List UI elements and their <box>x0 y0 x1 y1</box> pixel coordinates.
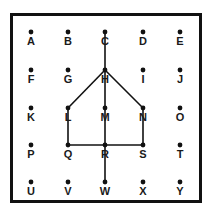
dot-grid-figure: ABCDEFGHIJKLMNOPQRSTUVWXY <box>0 0 210 222</box>
point-d: D <box>139 30 147 47</box>
dot-marker-icon <box>103 143 108 148</box>
point-label: G <box>64 73 73 85</box>
point-label: U <box>27 185 35 197</box>
point-b: B <box>64 30 72 47</box>
point-label: B <box>64 35 72 47</box>
segment-h-l <box>68 70 105 108</box>
dot-marker-icon <box>29 143 34 148</box>
point-label: R <box>101 148 109 160</box>
dot-marker-icon <box>178 180 183 185</box>
point-label: L <box>65 111 72 123</box>
point-o: O <box>176 106 185 123</box>
point-label: D <box>139 35 147 47</box>
segment-h-n <box>105 70 143 108</box>
point-k: K <box>27 106 35 123</box>
point-label: Y <box>176 185 184 197</box>
point-l: L <box>65 106 72 123</box>
point-label: N <box>139 111 147 123</box>
point-a: A <box>27 30 35 47</box>
point-j: J <box>177 68 183 85</box>
dot-marker-icon <box>103 180 108 185</box>
dot-marker-icon <box>141 180 146 185</box>
point-label: C <box>101 35 109 47</box>
point-g: G <box>64 68 73 85</box>
point-v: V <box>64 180 72 197</box>
dot-marker-icon <box>178 68 183 73</box>
dot-marker-icon <box>29 106 34 111</box>
point-label: S <box>139 148 146 160</box>
dot-marker-icon <box>66 30 71 35</box>
point-label: E <box>176 35 183 47</box>
point-t: T <box>177 143 184 160</box>
point-label: H <box>101 73 109 85</box>
dot-marker-icon <box>141 106 146 111</box>
point-label: W <box>100 185 111 197</box>
point-n: N <box>139 106 147 123</box>
dot-marker-icon <box>29 180 34 185</box>
dot-marker-icon <box>141 143 146 148</box>
point-label: X <box>139 185 147 197</box>
point-label: I <box>141 73 144 85</box>
point-label: P <box>27 148 34 160</box>
dot-marker-icon <box>66 143 71 148</box>
point-label: O <box>176 111 185 123</box>
dot-marker-icon <box>178 143 183 148</box>
point-label: T <box>177 148 184 160</box>
dot-marker-icon <box>66 106 71 111</box>
point-p: P <box>27 143 34 160</box>
point-y: Y <box>176 180 184 197</box>
point-label: K <box>27 111 35 123</box>
point-i: I <box>141 68 146 85</box>
point-label: A <box>27 35 35 47</box>
point-c: C <box>101 30 109 47</box>
dot-marker-icon <box>103 68 108 73</box>
point-label: F <box>28 73 35 85</box>
dot-marker-icon <box>141 30 146 35</box>
point-w: W <box>100 180 111 197</box>
grid-points: ABCDEFGHIJKLMNOPQRSTUVWXY <box>27 30 185 197</box>
dot-marker-icon <box>103 106 108 111</box>
dot-marker-icon <box>29 68 34 73</box>
point-label: V <box>64 185 72 197</box>
point-x: X <box>139 180 147 197</box>
dot-marker-icon <box>178 30 183 35</box>
dot-marker-icon <box>103 30 108 35</box>
point-f: F <box>28 68 35 85</box>
point-label: M <box>100 111 109 123</box>
point-e: E <box>176 30 183 47</box>
dot-marker-icon <box>178 106 183 111</box>
dot-marker-icon <box>66 68 71 73</box>
point-h: H <box>101 68 109 85</box>
dot-marker-icon <box>141 68 146 73</box>
point-label: Q <box>64 148 73 160</box>
point-m: M <box>100 106 109 123</box>
dot-grid-canvas: ABCDEFGHIJKLMNOPQRSTUVWXY <box>0 0 210 222</box>
dot-marker-icon <box>29 30 34 35</box>
dot-marker-icon <box>66 180 71 185</box>
point-label: J <box>177 73 183 85</box>
point-u: U <box>27 180 35 197</box>
